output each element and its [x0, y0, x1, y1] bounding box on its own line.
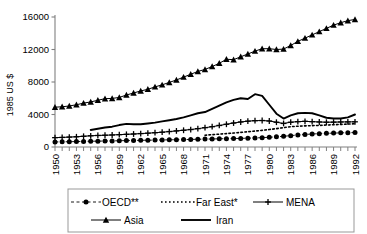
y-axis-title: 1985 US $: [5, 74, 15, 117]
y-axis-tick-label: 4000: [28, 109, 49, 120]
x-axis-tick-label: 1959: [114, 154, 125, 175]
data-point-marker: [288, 133, 293, 138]
y-axis: 0400080001200016000: [23, 11, 55, 152]
legend-item[interactable]: MENA: [253, 197, 315, 208]
data-point-marker: [173, 77, 179, 83]
data-point-marker: [74, 139, 79, 144]
data-point-marker: [209, 63, 215, 69]
data-point-marker: [288, 42, 294, 48]
data-point-marker: [310, 132, 315, 137]
y-axis-tick-label: 0: [44, 141, 49, 152]
x-axis-tick-label: 1980: [264, 154, 275, 175]
data-point-marker: [203, 137, 208, 142]
data-point-marker: [103, 138, 108, 143]
data-point-marker: [88, 139, 93, 144]
data-point-marker: [352, 16, 358, 22]
data-point-marker: [324, 131, 329, 136]
y-axis-tick-label: 16000: [23, 11, 49, 22]
data-point-marker: [245, 51, 251, 57]
x-axis-tick-label: 1968: [178, 154, 189, 175]
legend-item-label: MENA: [286, 197, 315, 208]
data-point-marker: [303, 132, 308, 137]
data-point-marker: [180, 74, 186, 80]
data-point-marker: [253, 135, 258, 140]
data-point-marker: [188, 137, 193, 142]
data-point-marker: [188, 71, 194, 77]
data-point-marker: [317, 131, 322, 136]
legend-item[interactable]: Iran: [181, 215, 233, 226]
x-axis-tick-label: 1953: [71, 154, 82, 175]
data-point-marker: [316, 28, 322, 34]
data-point-marker: [95, 139, 100, 144]
x-axis-tick-label: 1950: [50, 154, 61, 175]
x-axis-tick-label: 1974: [221, 154, 232, 175]
x-axis: 1950195319561959196219651968197119741977…: [50, 147, 361, 175]
data-point-marker: [202, 66, 208, 72]
data-point-marker: [238, 136, 243, 141]
data-point-marker: [145, 138, 150, 143]
data-point-marker: [181, 137, 186, 142]
chart-container: 04000800012000160001985 US $195019531956…: [0, 0, 367, 234]
legend-item[interactable]: Asia: [91, 215, 144, 226]
series-line: [55, 19, 355, 107]
data-point-marker: [338, 130, 343, 135]
legend-border: [68, 189, 354, 232]
data-point-marker: [160, 137, 165, 142]
data-point-marker: [110, 138, 115, 143]
data-point-marker: [167, 137, 172, 142]
x-axis-tick-label: 1962: [135, 154, 146, 175]
legend-item[interactable]: OECD**: [71, 197, 139, 208]
data-point-marker: [331, 131, 336, 136]
x-axis-tick-label: 1992: [350, 154, 361, 175]
data-point-marker: [238, 54, 244, 60]
data-point-marker: [295, 132, 300, 137]
legend-item-label: Asia: [124, 215, 144, 226]
data-point-marker: [231, 136, 236, 141]
data-point-marker: [124, 138, 129, 143]
x-axis-tick-label: 1965: [157, 154, 168, 175]
data-point-marker: [281, 134, 286, 139]
data-point-marker: [224, 136, 229, 141]
data-point-marker: [117, 138, 122, 143]
data-point-marker: [345, 130, 350, 135]
y-axis-tick-label: 8000: [28, 76, 49, 87]
data-point-marker: [81, 139, 86, 144]
data-point-marker: [217, 136, 222, 141]
data-point-marker: [138, 138, 143, 143]
x-axis-tick-label: 1989: [328, 154, 339, 175]
line-chart: 04000800012000160001985 US $195019531956…: [0, 0, 367, 234]
x-axis-tick-label: 1983: [285, 154, 296, 175]
data-point-marker: [302, 35, 308, 41]
data-point-marker: [174, 137, 179, 142]
chart-legend: OECD**Far East*MENAAsiaIran: [68, 189, 354, 232]
data-point-marker: [84, 200, 89, 205]
legend-item[interactable]: Far East*: [161, 197, 238, 208]
data-point-marker: [267, 135, 272, 140]
legend-item-label: Iran: [216, 215, 233, 226]
legend-item-label: OECD**: [102, 197, 139, 208]
legend-item-label: Far East*: [196, 197, 238, 208]
data-point-marker: [153, 138, 158, 143]
data-point-marker: [216, 60, 222, 66]
data-point-marker: [210, 136, 215, 141]
data-point-marker: [260, 135, 265, 140]
data-point-marker: [353, 130, 358, 135]
y-axis-tick-label: 12000: [23, 44, 49, 55]
x-axis-tick-label: 1986: [307, 154, 318, 175]
data-point-marker: [274, 134, 279, 139]
data-point-marker: [323, 25, 329, 31]
data-point-marker: [131, 138, 136, 143]
series-asia: [52, 16, 358, 110]
data-point-marker: [295, 38, 301, 44]
data-point-marker: [195, 137, 200, 142]
x-axis-tick-label: 1956: [92, 154, 103, 175]
x-axis-tick-label: 1971: [200, 154, 211, 175]
data-point-marker: [309, 32, 315, 38]
data-point-marker: [245, 136, 250, 141]
x-axis-tick-label: 1977: [242, 154, 253, 175]
